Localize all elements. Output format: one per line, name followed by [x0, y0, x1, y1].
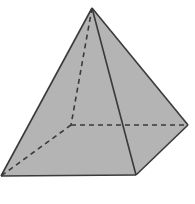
pyramid-diagram: [0, 0, 195, 204]
edge-frontleft-frontright: [1, 175, 136, 176]
